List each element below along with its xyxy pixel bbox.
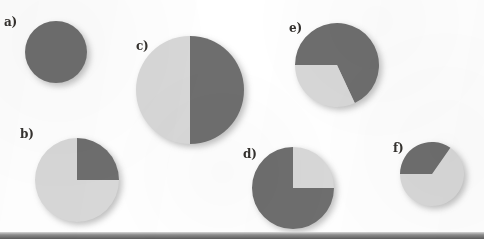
pie-e-svg — [293, 21, 381, 109]
bottom-rule — [0, 232, 484, 239]
pie-f-svg — [398, 140, 466, 208]
pie-c-slice-dark — [190, 36, 244, 144]
pie-label-e: e) — [289, 22, 302, 34]
pie-d-slice-light — [293, 147, 334, 188]
pie-label-a: a) — [4, 16, 17, 28]
pie-b — [33, 136, 121, 224]
pie-b-slice-dark — [77, 138, 119, 180]
pie-label-d: d) — [243, 148, 257, 160]
pie-d-svg — [250, 145, 336, 231]
pie-b-svg — [33, 136, 121, 224]
pie-a-svg — [23, 19, 89, 85]
pie-label-f: f) — [393, 142, 403, 154]
pie-a — [23, 19, 89, 85]
pie-c — [134, 34, 246, 146]
pie-f — [398, 140, 466, 208]
pie-a-slice-dark — [25, 21, 87, 83]
pie-c-svg — [134, 34, 246, 146]
pie-label-b: b) — [20, 128, 34, 140]
pie-d — [250, 145, 336, 231]
pie-e — [293, 21, 381, 109]
pie-chart-figure: a) b) c) d) e) f) — [0, 0, 484, 239]
pie-label-c: c) — [136, 40, 149, 52]
